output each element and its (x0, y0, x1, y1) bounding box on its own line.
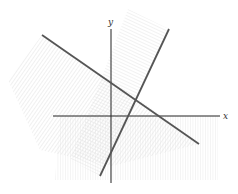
y-axis-label: y (107, 17, 114, 27)
inequality-graph: x y (0, 0, 238, 194)
shaded-region-below-x-axis (55, 116, 218, 180)
x-axis-label: x (223, 111, 228, 121)
